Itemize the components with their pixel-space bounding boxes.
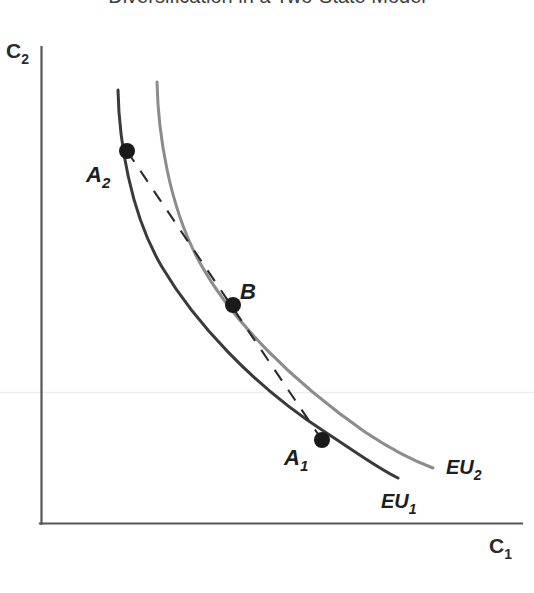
point-label-a1: A1: [283, 445, 308, 474]
point-a1: [314, 432, 330, 448]
diversification-plot: A2 B A1 EU2 EU1 C2 C1: [0, 0, 534, 593]
curve-label-eu2: EU2: [446, 456, 482, 483]
y-axis-label: C2: [6, 39, 29, 67]
figure-container: Diversification in a Two-State Model A2 …: [0, 0, 534, 593]
curve-label-eu1: EU1: [381, 490, 417, 517]
point-label-b: B: [240, 279, 256, 304]
chord-a2-a1: [127, 151, 322, 440]
point-a2: [119, 143, 135, 159]
point-b: [225, 297, 241, 313]
point-label-a2: A2: [85, 162, 111, 191]
curve-eu1: [118, 90, 398, 478]
x-axis-label: C1: [489, 534, 512, 562]
